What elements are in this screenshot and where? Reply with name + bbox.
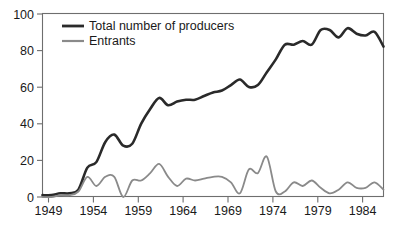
y-axis-label-0: 0 xyxy=(27,191,34,205)
legend-label-total-number-of-producers: Total number of producers xyxy=(89,19,234,33)
legend-label-entrants: Entrants xyxy=(89,34,136,48)
y-axis-label-40: 40 xyxy=(20,117,34,131)
x-axis-label-1974: 1974 xyxy=(259,204,287,218)
y-axis-labels: 100 80 60 40 20 0 xyxy=(13,8,34,205)
series-total-number-of-producers xyxy=(43,28,384,195)
y-axis-label-100: 100 xyxy=(13,8,34,22)
y-axis-label-60: 60 xyxy=(20,81,34,95)
chart-legend: Total number of producers Entrants xyxy=(62,19,234,48)
x-axis-label-1964: 1964 xyxy=(169,204,197,218)
x-axis-label-1959: 1959 xyxy=(124,204,152,218)
x-axis-label-1979: 1979 xyxy=(304,204,332,218)
x-axis-label-1954: 1954 xyxy=(79,204,107,218)
chart-figure: 100 80 60 40 20 0 1949 1954 1959 1964 19… xyxy=(0,0,409,228)
line-chart: 100 80 60 40 20 0 1949 1954 1959 1964 19… xyxy=(0,0,409,228)
y-axis-label-80: 80 xyxy=(20,44,34,58)
y-axis-ticks xyxy=(37,14,43,197)
data-series-group xyxy=(43,28,384,197)
series-entrants xyxy=(43,156,384,197)
x-axis-label-1984: 1984 xyxy=(349,204,377,218)
x-axis-label-1969: 1969 xyxy=(214,204,242,218)
x-axis-label-1949: 1949 xyxy=(35,204,63,218)
x-axis-labels: 1949 1954 1959 1964 1969 1974 1979 1984 xyxy=(35,204,377,218)
x-axis-ticks xyxy=(49,197,363,203)
y-axis-label-20: 20 xyxy=(20,154,34,168)
